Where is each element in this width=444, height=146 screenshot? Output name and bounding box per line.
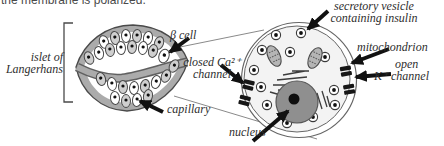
secretory-vesicle-target — [296, 28, 305, 37]
secretory-vesicle-label-line2: containing insulin — [324, 12, 424, 24]
islet-bracket — [64, 23, 73, 102]
closed-ca-channel-label: closed Ca²⁺ channel — [177, 56, 247, 80]
open-k-channel-label: open K⁺ channel — [374, 58, 429, 82]
beta-cell-label: β cell — [170, 29, 196, 41]
nucleolus — [289, 94, 300, 105]
insulin-secretion-diagram: the membrane is polarized. islet of Lang… — [0, 0, 444, 146]
islet-label-line2: Langerhans — [0, 63, 63, 75]
mitochondrion-label: mitochondrion — [357, 41, 428, 53]
nucleus-label: nucleus — [229, 126, 266, 138]
capillary-label: capillary — [167, 103, 210, 115]
closed-ca-channel-label-line2: channel — [177, 68, 247, 80]
open-k-channel-label-line2: K⁺ channel — [374, 70, 429, 82]
top-caption: the membrane is polarized. — [1, 0, 146, 7]
secretory-vesicle-label: secretory vesicle containing insulin — [324, 0, 424, 24]
islet-label: islet of Langerhans — [0, 51, 63, 75]
